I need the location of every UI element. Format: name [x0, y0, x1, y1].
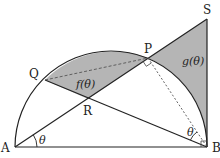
label-S: S — [203, 3, 211, 17]
label-A: A — [0, 141, 10, 155]
geometry-diagram: A B P Q R S f(θ) g(θ) θ θ — [0, 0, 220, 158]
label-g-theta: g(θ) — [182, 55, 204, 68]
label-theta-A: θ — [39, 134, 46, 147]
line-BQ — [45, 80, 207, 147]
label-Q: Q — [29, 67, 39, 81]
angle-arc-A — [33, 135, 37, 147]
right-angle-mark-P — [143, 61, 151, 66]
label-B: B — [212, 141, 220, 155]
region-f — [45, 51, 148, 99]
line-AS — [15, 19, 207, 147]
label-f-theta: f(θ) — [75, 78, 95, 91]
label-theta-B: θ — [187, 126, 194, 139]
label-P: P — [144, 42, 152, 56]
label-R: R — [83, 104, 93, 118]
